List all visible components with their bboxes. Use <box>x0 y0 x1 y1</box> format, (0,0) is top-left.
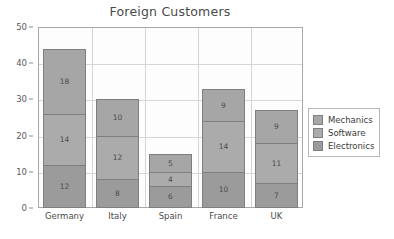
bar-segment-value: 12 <box>60 183 70 191</box>
legend-swatch-icon <box>313 128 323 138</box>
bar-segment-value: 14 <box>219 143 229 151</box>
bar-segment[interactable]: 10 <box>202 172 244 208</box>
y-axis-tick-label: 30 <box>16 94 27 104</box>
y-axis-tick-label: 50 <box>16 22 27 32</box>
y-axis-tick-label: 0 <box>22 203 27 213</box>
legend-swatch-icon <box>313 115 323 125</box>
legend-item-label: Software <box>328 128 365 138</box>
legend-swatch-icon <box>313 141 323 151</box>
bar-segment[interactable]: 5 <box>149 154 191 172</box>
x-axis: GermanyItalySpainFranceUK <box>38 211 303 231</box>
legend-item[interactable]: Electronics <box>313 139 374 152</box>
y-axis-tick-mark <box>29 63 33 64</box>
bar-segment-value: 10 <box>113 114 123 122</box>
legend-item-label: Electronics <box>328 141 374 151</box>
bar-segment-value: 11 <box>272 160 282 168</box>
bar-segment[interactable]: 11 <box>255 143 297 183</box>
bar-segment-value: 18 <box>60 78 70 86</box>
bar-segment-value: 10 <box>219 186 229 194</box>
bar-segment[interactable]: 7 <box>255 183 297 208</box>
bar-segment-value: 9 <box>221 102 226 110</box>
y-axis-tick-mark <box>29 99 33 100</box>
x-axis-tick-label: Italy <box>108 211 126 221</box>
bar-segment[interactable]: 9 <box>255 110 297 143</box>
bars-layer: 12141881210645101497119 <box>38 27 303 208</box>
y-axis-tick-mark <box>29 135 33 136</box>
bar-segment-value: 14 <box>60 136 70 144</box>
bar-segment-value: 9 <box>274 123 279 131</box>
bar-segment-value: 5 <box>168 160 173 168</box>
legend-item[interactable]: Mechanics <box>313 113 374 126</box>
x-axis-tick-label: Germany <box>45 211 84 221</box>
bar-segment-value: 4 <box>168 176 173 184</box>
bar-group[interactable]: 645 <box>149 27 191 208</box>
bar-segment-value: 8 <box>115 190 120 198</box>
legend-item-label: Mechanics <box>328 115 373 125</box>
bar-segment[interactable]: 9 <box>202 89 244 122</box>
bar-group[interactable]: 81210 <box>96 27 138 208</box>
bar-group[interactable]: 121418 <box>43 27 85 208</box>
y-axis-tick-label: 40 <box>16 58 27 68</box>
stacked-bar-chart: Foreign Customers 01020304050 1214188121… <box>0 0 394 239</box>
bar-segment[interactable]: 14 <box>202 121 244 172</box>
y-axis-tick-label: 20 <box>16 131 27 141</box>
bar-segment[interactable]: 18 <box>43 49 85 114</box>
x-axis-tick-label: France <box>209 211 237 221</box>
bar-group[interactable]: 7119 <box>255 27 297 208</box>
y-axis-tick-label: 10 <box>16 167 27 177</box>
x-axis-tick-label: Spain <box>159 211 183 221</box>
bar-segment-value: 7 <box>274 192 279 200</box>
legend-item[interactable]: Software <box>313 126 374 139</box>
y-axis-tick-mark <box>29 171 33 172</box>
bar-group[interactable]: 10149 <box>202 27 244 208</box>
y-axis-tick-mark <box>29 27 33 28</box>
bar-segment[interactable]: 4 <box>149 172 191 186</box>
bar-segment-value: 6 <box>168 193 173 201</box>
y-axis-tick-mark <box>29 208 33 209</box>
bar-segment[interactable]: 12 <box>96 136 138 179</box>
chart-legend: MechanicsSoftwareElectronics <box>308 108 380 157</box>
bar-segment[interactable]: 12 <box>43 165 85 208</box>
bar-segment[interactable]: 10 <box>96 99 138 135</box>
bar-segment[interactable]: 14 <box>43 114 85 165</box>
bar-segment-value: 12 <box>113 154 123 162</box>
x-axis-tick-label: UK <box>271 211 283 221</box>
bar-segment[interactable]: 8 <box>96 179 138 208</box>
y-axis: 01020304050 <box>0 27 33 208</box>
chart-title: Foreign Customers <box>0 4 340 19</box>
bar-segment[interactable]: 6 <box>149 186 191 208</box>
